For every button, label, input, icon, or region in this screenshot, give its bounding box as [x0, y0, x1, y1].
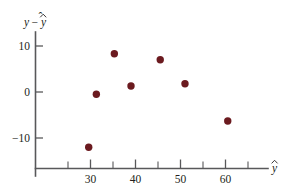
data-point: [224, 117, 231, 124]
data-point: [181, 80, 188, 87]
data-point: [157, 56, 164, 63]
y-axis-label-hat: ̂: [39, 12, 43, 14]
y-axis-label-var: y: [23, 16, 30, 29]
y-axis-label-fitted: y: [40, 16, 47, 29]
y-axis-label: y − y ̂: [23, 12, 47, 30]
scatter-plot-canvas: 10 0 −10 30 40 50 60 y − y ̂ y: [0, 0, 291, 192]
data-point: [111, 50, 118, 57]
y-tick-label-10: 10: [19, 40, 31, 52]
x-axis-label: y: [271, 160, 278, 175]
x-tick-label-60: 60: [220, 173, 232, 185]
y-tick-label-neg10: −10: [12, 132, 30, 144]
x-tick-label-50: 50: [175, 173, 187, 185]
data-point: [127, 82, 134, 89]
residual-plot-figure: 10 0 −10 30 40 50 60 y − y ̂ y: [0, 0, 291, 192]
data-point: [93, 91, 100, 98]
data-points-group: [85, 50, 231, 151]
x-tick-label-40: 40: [130, 173, 142, 185]
y-axis-label-minus: −: [32, 16, 39, 28]
x-axis-label-fitted: y: [271, 162, 278, 175]
y-tick-label-0: 0: [24, 86, 30, 98]
x-tick-label-30: 30: [85, 173, 97, 185]
data-point: [85, 144, 92, 151]
